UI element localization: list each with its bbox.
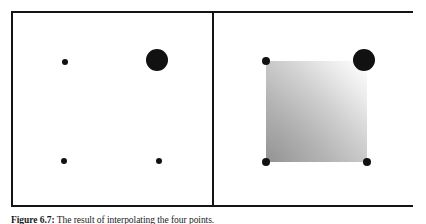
input-points-canvas	[13, 13, 212, 205]
figure-frame	[11, 11, 413, 207]
input-points-panel	[13, 13, 212, 205]
point-top-right	[353, 49, 375, 71]
panel-background	[13, 13, 212, 205]
figure-caption-text: The result of interpolating the four poi…	[55, 215, 215, 224]
point-top-right	[146, 49, 168, 71]
point-bottom-right	[363, 158, 371, 166]
interpolated-surface-canvas	[214, 13, 413, 205]
point-bottom-left	[61, 158, 67, 164]
point-bottom-right	[156, 158, 162, 164]
point-top-left	[62, 59, 68, 65]
point-top-left	[262, 57, 270, 65]
point-bottom-left	[262, 158, 270, 166]
figure-caption-label: Figure 6.7:	[11, 215, 55, 224]
figure-caption: Figure 6.7: The result of interpolating …	[11, 215, 415, 224]
interpolated-surface-panel	[214, 13, 413, 205]
figure-container: Figure 6.7: The result of interpolating …	[0, 0, 426, 224]
interpolated-quad-corner-shading	[266, 61, 367, 162]
